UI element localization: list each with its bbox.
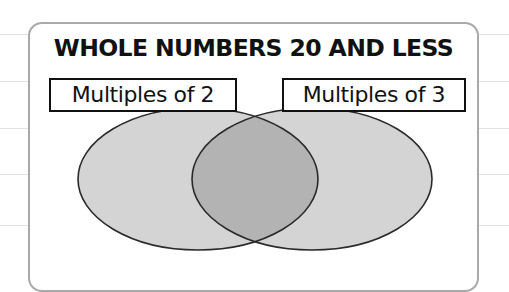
set-label-multiples-of-2: Multiples of 2	[49, 78, 237, 112]
set-label-multiples-of-3: Multiples of 3	[282, 78, 466, 112]
